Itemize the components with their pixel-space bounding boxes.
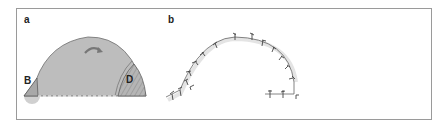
diagram-canvas: B D bbox=[0, 0, 442, 126]
region-label-d: D bbox=[126, 74, 133, 85]
region-label-b: B bbox=[24, 75, 31, 86]
arc-ticks bbox=[170, 33, 299, 100]
panel-a-diagram: B D bbox=[24, 37, 146, 104]
b-halo bbox=[24, 96, 40, 104]
arc-halo bbox=[168, 39, 296, 100]
panel-b-diagram bbox=[166, 33, 299, 100]
